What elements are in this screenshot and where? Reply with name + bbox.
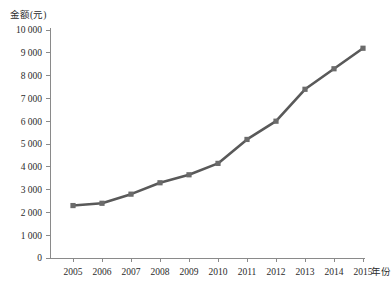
x-axis-tick-label: 2007 — [122, 267, 141, 277]
y-axis-tick-label: 9 000 — [21, 48, 43, 58]
x-axis-title-text: 年份 — [371, 266, 391, 277]
y-axis-tick-label: 0 — [37, 253, 42, 263]
y-axis-tick-label: 6 000 — [21, 117, 43, 127]
series-line-amount — [73, 48, 363, 205]
series-marker-point — [99, 201, 104, 206]
x-axis-tick-label: 2005 — [64, 267, 83, 277]
axes-group — [46, 28, 365, 262]
chart-figure: 01 0002 0003 0004 0005 0006 0007 0008 00… — [0, 0, 391, 300]
series-marker-point — [273, 119, 278, 124]
series-marker-point — [215, 161, 220, 166]
series-marker-point — [128, 192, 133, 197]
series-marker-point — [157, 180, 162, 185]
x-axis-tick-label: 2011 — [238, 267, 257, 277]
x-axis-tick-label: 2008 — [151, 267, 170, 277]
y-axis-tick-label: 1 000 — [21, 231, 43, 241]
y-axis-tick-label: 5 000 — [21, 139, 43, 149]
y-axis-tick-label: 8 000 — [21, 71, 43, 81]
x-axis-tick-label: 2010 — [209, 267, 228, 277]
x-axis-tick-label: 2012 — [267, 267, 286, 277]
y-axis-tick-label: 10 000 — [16, 25, 42, 35]
series-marker-point — [186, 172, 191, 177]
y-axis-tick-label: 2 000 — [21, 208, 43, 218]
y-axis-title-text: 金额(元) — [10, 9, 46, 21]
series-marker-point — [360, 46, 365, 51]
x-axis-tick-label: 2009 — [180, 267, 199, 277]
x-axis-tick-label: 2014 — [325, 267, 344, 277]
y-axis-tick-label: 3 000 — [21, 185, 43, 195]
series-marker-point — [244, 137, 249, 142]
series-group — [70, 46, 365, 209]
labels-group: 01 0002 0003 0004 0005 0006 0007 0008 00… — [10, 9, 391, 277]
y-axis-tick-label: 4 000 — [21, 162, 43, 172]
series-marker-point — [70, 203, 75, 208]
y-axis-tick-label: 7 000 — [21, 94, 43, 104]
x-axis-tick-label: 2013 — [296, 267, 315, 277]
series-marker-point — [331, 66, 336, 71]
x-axis-tick-label: 2015 — [354, 267, 373, 277]
series-marker-point — [302, 87, 307, 92]
line-chart-canvas: 01 0002 0003 0004 0005 0006 0007 0008 00… — [0, 0, 391, 300]
x-axis-tick-label: 2006 — [93, 267, 112, 277]
